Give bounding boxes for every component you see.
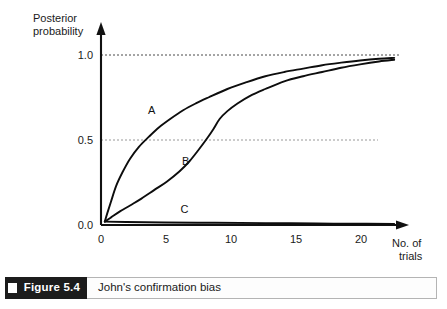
x-axis-tick-labels: 0 5 10 15 20 [98,233,367,245]
y-axis-title-line2: probability [33,25,84,37]
x-tick-label-10: 10 [225,233,237,245]
curve-C [105,222,394,224]
curve-label-B: B [182,155,189,167]
curve-label-C: C [180,203,188,215]
y-tick-label-1.0: 1.0 [78,49,93,61]
x-axis-title-line1: No. of [392,237,422,249]
figure-number-label: Figure 5.4 [24,282,80,294]
x-tick-label-15: 15 [290,233,302,245]
x-axis-title-line2: trials [399,250,423,262]
y-tick-label-0.5: 0.5 [78,134,93,146]
figure-number-tab: Figure 5.4 [5,277,87,299]
y-tick-label-0.0: 0.0 [78,219,93,231]
data-curves [105,58,394,224]
y-axis-title-line1: Posterior [33,12,77,24]
figure-container: Posterior probability 1.0 0.5 0.0 [0,0,447,309]
y-axis-arrow-icon [96,22,105,35]
y-axis-tick-labels: 1.0 0.5 0.0 [78,49,93,231]
x-axis-arrow-icon [396,220,409,229]
figure-caption-text: John's confirmation bias [98,282,221,294]
x-tick-label-0: 0 [98,233,104,245]
caption-notch-marker [8,283,17,293]
curve-B [105,60,394,222]
x-tick-label-5: 5 [163,233,169,245]
chart-plot-area: Posterior probability 1.0 0.5 0.0 [0,0,447,265]
figure-caption-bar: Figure 5.4 John's confirmation bias [5,277,437,299]
gridlines [101,55,400,140]
curve-label-A: A [148,104,156,116]
posterior-probability-line-chart: Posterior probability 1.0 0.5 0.0 [0,0,447,265]
figure-caption-body: John's confirmation bias [87,277,437,299]
x-tick-label-20: 20 [355,233,367,245]
